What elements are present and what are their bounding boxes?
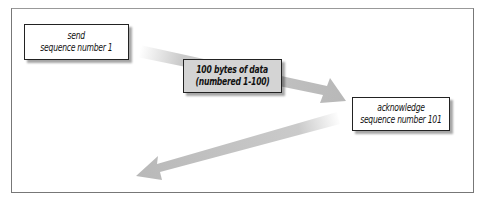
acknowledge-box: acknowledge sequence number 101 bbox=[352, 97, 450, 131]
data-bytes-label: 100 bytes of data bbox=[197, 64, 268, 76]
acknowledge-label: acknowledge bbox=[377, 102, 425, 114]
data-range-label: (numbered 1-100) bbox=[195, 76, 269, 88]
send-label: send bbox=[68, 30, 85, 42]
data-bytes-box: 100 bytes of data (numbered 1-100) bbox=[183, 59, 282, 93]
send-sequence-box: send sequence number 1 bbox=[24, 24, 129, 60]
return-arrow-icon bbox=[136, 112, 340, 180]
acknowledge-sequence-label: sequence number 101 bbox=[360, 114, 441, 126]
send-sequence-label: sequence number 1 bbox=[40, 42, 112, 54]
